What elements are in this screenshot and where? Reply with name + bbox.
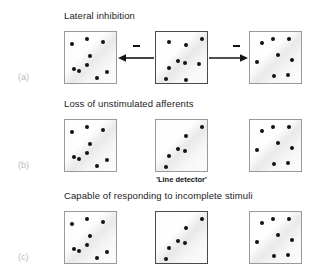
afferent-dot <box>72 247 76 251</box>
afferent-dot <box>276 233 280 237</box>
afferent-dot <box>290 238 294 242</box>
afferent-dot <box>164 165 168 169</box>
figure-row-3: Capable of responding to incomplete stim… <box>0 190 318 275</box>
figure-row-2: Loss of unstimulated afferents(b)'Line d… <box>0 98 318 185</box>
afferent-dot <box>271 217 275 221</box>
afferent-dot <box>255 60 259 64</box>
row-title: Capable of responding to incomplete stim… <box>64 190 253 201</box>
afferent-dot <box>276 141 280 145</box>
figure-row-1: Lateral inhibition(a) <box>0 10 318 97</box>
afferent-dot <box>70 42 74 46</box>
afferent-dot <box>105 158 109 162</box>
cortical-map-b-middle <box>155 119 208 172</box>
afferent-dot <box>70 130 74 134</box>
afferent-dot <box>164 257 168 261</box>
afferent-dot <box>77 157 81 161</box>
afferent-dot <box>167 246 171 250</box>
afferent-dot <box>183 61 187 65</box>
afferent-dot <box>197 62 201 66</box>
row-letter-label: (b) <box>18 160 29 170</box>
minus-sign-icon <box>133 45 140 48</box>
afferent-dot <box>184 43 188 47</box>
afferent-dot <box>101 40 105 44</box>
afferent-dot <box>88 234 92 238</box>
row-title: Lateral inhibition <box>64 10 135 21</box>
afferent-dot <box>276 53 280 57</box>
afferent-dot <box>77 249 81 253</box>
cortical-map-c-right <box>249 211 302 264</box>
afferent-dot <box>260 41 264 45</box>
afferent-dot <box>176 239 180 243</box>
afferent-dot <box>287 37 291 41</box>
afferent-dot <box>176 59 180 63</box>
panel-caption-line-detector: 'Line detector' <box>143 175 220 184</box>
afferent-dot <box>271 125 275 129</box>
afferent-dot <box>286 253 290 257</box>
afferent-dot <box>167 40 171 44</box>
afferent-dot <box>85 63 89 67</box>
cortical-map-b-left <box>64 119 117 172</box>
afferent-dot <box>167 66 171 70</box>
cortical-map-a-middle <box>155 31 208 84</box>
afferent-dot <box>290 146 294 150</box>
afferent-dot <box>101 128 105 132</box>
afferent-dot <box>184 226 188 230</box>
afferent-dot <box>184 78 188 82</box>
afferent-dot <box>272 74 276 78</box>
cortical-map-c-middle <box>155 211 208 264</box>
cortical-map-a-left <box>64 31 117 84</box>
afferent-dot <box>260 129 264 133</box>
afferent-dot <box>101 220 105 224</box>
afferent-dot <box>255 240 259 244</box>
cortical-map-b-right <box>249 119 302 172</box>
inhibition-arrow-right <box>209 53 248 63</box>
afferent-dot <box>105 250 109 254</box>
minus-sign-icon <box>233 45 240 48</box>
afferent-dot <box>77 69 81 73</box>
afferent-dot <box>85 217 89 221</box>
row-letter-label: (c) <box>18 252 29 262</box>
afferent-dot <box>184 134 188 138</box>
inhibition-arrow-left <box>118 53 154 63</box>
afferent-dot <box>287 125 291 129</box>
row-letter-label: (a) <box>18 72 29 82</box>
afferent-dot <box>290 58 294 62</box>
afferent-dot <box>272 254 276 258</box>
afferent-dot <box>85 37 89 41</box>
afferent-dot <box>95 256 99 260</box>
afferent-dot <box>85 151 89 155</box>
afferent-dot <box>88 142 92 146</box>
afferent-dot <box>164 77 168 81</box>
afferent-dot <box>183 241 187 245</box>
figure-cortical-plasticity: Lateral inhibition(a)Loss of unstimulate… <box>0 0 318 275</box>
afferent-dot <box>85 125 89 129</box>
afferent-dot <box>95 76 99 80</box>
afferent-dot <box>72 155 76 159</box>
afferent-dot <box>272 162 276 166</box>
cortical-map-c-left <box>64 211 117 264</box>
afferent-dot <box>95 164 99 168</box>
afferent-dot <box>255 148 259 152</box>
afferent-dot <box>200 125 204 129</box>
afferent-dot <box>260 221 264 225</box>
afferent-dot <box>286 161 290 165</box>
afferent-dot <box>200 37 204 41</box>
afferent-dot <box>72 67 76 71</box>
cortical-map-a-right <box>249 31 302 84</box>
afferent-dot <box>287 217 291 221</box>
row-title: Loss of unstimulated afferents <box>64 98 194 109</box>
afferent-dot <box>271 37 275 41</box>
afferent-dot <box>88 54 92 58</box>
afferent-dot <box>200 217 204 221</box>
afferent-dot <box>286 73 290 77</box>
afferent-dot <box>85 243 89 247</box>
afferent-dot <box>105 70 109 74</box>
afferent-dot <box>183 149 187 153</box>
afferent-dot <box>176 147 180 151</box>
afferent-dot <box>70 222 74 226</box>
afferent-dot <box>167 154 171 158</box>
